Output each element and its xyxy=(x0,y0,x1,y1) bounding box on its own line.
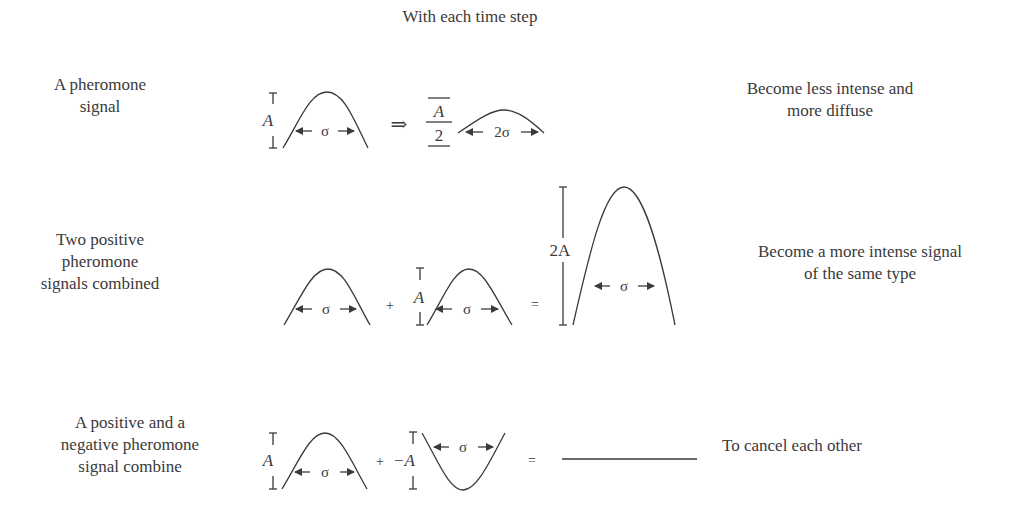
row1-2sigma-label: 2σ xyxy=(494,124,510,140)
row2-amplitude-label: A xyxy=(413,288,425,307)
row2-2A-label: 2A xyxy=(550,241,572,260)
row3-plus: + xyxy=(376,454,384,469)
row3-neg-amplitude-label: −A xyxy=(393,451,415,470)
row1-fraction-numerator: A xyxy=(433,102,445,121)
row1-fraction-denominator: 2 xyxy=(435,126,444,145)
row2-combined-curve xyxy=(573,187,675,325)
row2-equals: = xyxy=(531,297,539,312)
row2-plus: + xyxy=(386,298,394,313)
row3-amplitude-label: A xyxy=(262,451,274,470)
pheromone-diagram: A σ ⇒ A 2 2σ σ + A σ = 2A σ A σ + −A σ = xyxy=(0,0,1015,513)
row3-sigma-label-2: σ xyxy=(459,439,467,455)
row1-arrow-operator: ⇒ xyxy=(391,113,408,135)
row3-equals: = xyxy=(528,453,536,468)
row2-sigma-label-1: σ xyxy=(322,301,330,317)
row2-combined-sigma-label: σ xyxy=(620,278,628,294)
row1-amplitude-label: A xyxy=(262,111,274,130)
row2-sigma-label-2: σ xyxy=(463,301,471,317)
row1-bell-curve xyxy=(283,92,368,148)
row1-sigma-label: σ xyxy=(321,123,329,139)
row3-positive-curve xyxy=(282,433,367,489)
row3-sigma-label-1: σ xyxy=(321,464,329,480)
